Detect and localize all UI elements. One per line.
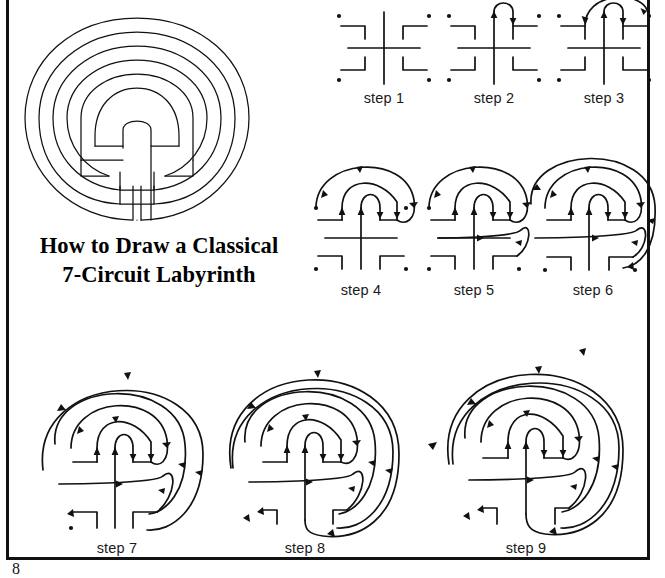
step-3-label: step 3 — [549, 90, 659, 106]
seed-dot-top-left — [337, 14, 341, 18]
step-6-svg — [527, 146, 659, 276]
main-labyrinth-figure — [17, 8, 257, 230]
seed-pattern-group — [447, 12, 541, 84]
step-7-figure — [27, 350, 207, 536]
step-2-arrow-end — [510, 18, 517, 25]
step-5-svg — [414, 150, 534, 275]
step-4-figure — [301, 150, 421, 275]
step-4-svg — [301, 150, 421, 275]
seed-dot-bottom-right — [427, 78, 431, 82]
step-6-arc-5 — [531, 158, 655, 268]
step-1-figure — [329, 6, 439, 90]
step-9-arrow-outer-top — [579, 348, 586, 356]
step-6-arrow-5-end — [627, 262, 634, 270]
main-labyrinth-svg — [17, 8, 257, 230]
page-title-line-1: How to Draw a Classical — [23, 232, 295, 261]
step-4-arc-1 — [361, 195, 380, 221]
step-6-figure — [527, 146, 659, 276]
step-5-arrow-4-end — [515, 240, 522, 246]
step-4-arrow-3-mid — [356, 166, 363, 173]
step-5-arrow-4-mid — [477, 235, 484, 242]
page-number: 8 — [12, 560, 20, 578]
step-9-figure — [423, 334, 629, 540]
step-5-label: step 5 — [414, 282, 534, 298]
step-9-label: step 9 — [423, 540, 629, 556]
page-title-line-2: 7-Circuit Labyrinth — [23, 261, 295, 290]
step-3-arc-1 — [604, 3, 623, 26]
step-8-figure — [207, 344, 403, 540]
step-8-svg — [207, 344, 403, 540]
step-2-arc-1 — [494, 3, 513, 26]
seed-pattern-group — [557, 12, 651, 84]
step-6-arrow-5-mid — [647, 218, 655, 224]
step-7-label: step 7 — [27, 540, 207, 556]
labyrinth-path-group — [25, 18, 249, 220]
step-4-label: step 4 — [301, 282, 421, 298]
page-title: How to Draw a Classical 7-Circuit Labyri… — [23, 232, 295, 290]
seed-pattern-group — [314, 206, 408, 271]
step-5-figure — [414, 150, 534, 275]
step-2-label: step 2 — [439, 90, 549, 106]
seed-dot-top-right — [427, 14, 431, 18]
step-3-svg — [549, 6, 659, 90]
page-border-frame: How to Draw a Classical 7-Circuit Labyri… — [6, 0, 650, 560]
step-1-label: step 1 — [329, 90, 439, 106]
seed-angle-top-left — [341, 26, 365, 39]
step-8-arrow-7-left — [243, 514, 250, 522]
step-2-figure — [439, 6, 549, 90]
step-3-arrow-start — [582, 16, 589, 25]
step-9-svg — [423, 334, 629, 540]
step-9-arrow-outer-left — [428, 442, 437, 450]
seed-dot-bottom-left — [337, 78, 341, 82]
seed-angle-bottom-right — [403, 57, 427, 70]
step-5-arc-4 — [438, 228, 529, 256]
step-2-svg — [439, 6, 549, 90]
step-4-arc-2 — [342, 183, 397, 220]
step-4-arrow-3-start — [321, 190, 328, 198]
seed-pattern-group — [543, 208, 637, 272]
step-8-label: step 8 — [207, 540, 403, 556]
seed-pattern-group — [337, 12, 431, 84]
step-3-figure — [549, 6, 659, 90]
step-6-label: step 6 — [527, 282, 659, 298]
step-7-svg — [27, 350, 207, 536]
step-2-arrow-start — [491, 11, 498, 18]
step-4-arc-3 — [316, 167, 414, 222]
step-1-svg — [329, 6, 439, 90]
step-7-arrow-6-top — [124, 372, 131, 380]
seed-angle-bottom-left — [341, 57, 365, 70]
seed-angle-top-right — [403, 26, 427, 39]
seed-pattern-group — [69, 448, 157, 530]
